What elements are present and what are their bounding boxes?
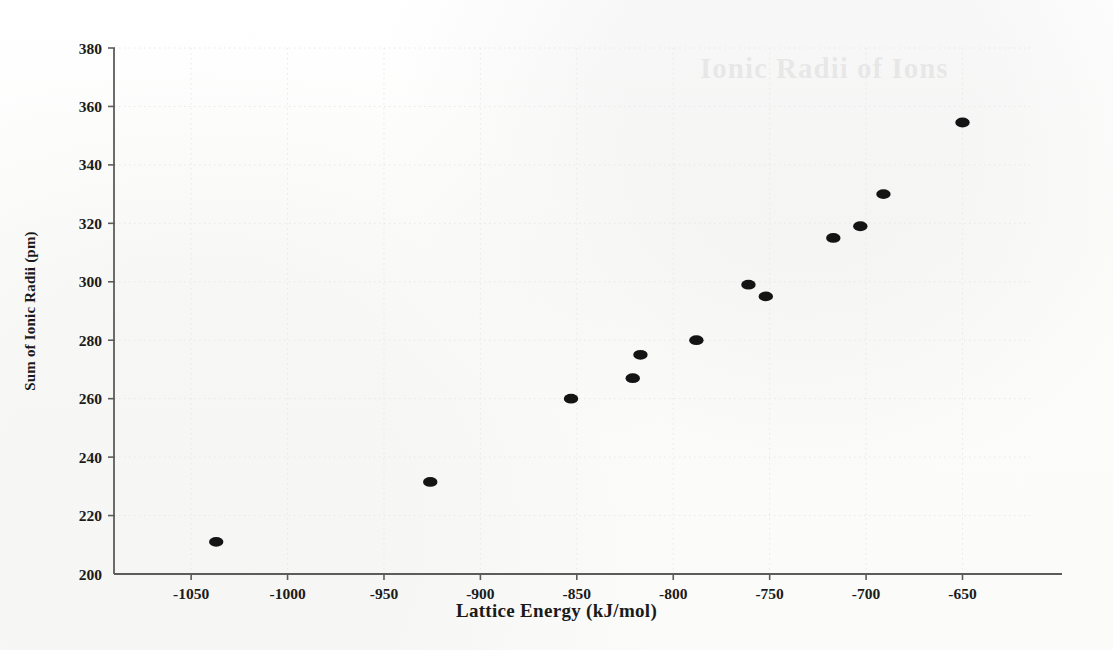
y-axis-tick-label: 220	[79, 507, 103, 524]
y-axis-tick-label: 340	[79, 156, 103, 173]
data-point-marker	[759, 291, 773, 301]
data-point-marker	[423, 477, 437, 487]
data-point-marker	[689, 335, 703, 345]
scatter-plot-figure: 200220240260280300320340360380-1050-1000…	[0, 0, 1113, 650]
data-point-marker	[853, 221, 867, 231]
y-axis-tick-label: 360	[79, 98, 103, 115]
plot-canvas: 200220240260280300320340360380-1050-1000…	[0, 0, 1113, 650]
x-axis-title: Lattice Energy (kJ/mol)	[0, 600, 1113, 622]
y-axis-tick-label: 280	[79, 332, 103, 349]
y-axis-title: Sum of Ionic Radii (pm)	[16, 48, 44, 574]
data-point-marker	[826, 233, 840, 243]
y-axis-tick-label: 320	[79, 215, 103, 232]
data-point-marker	[564, 394, 578, 404]
data-point-marker	[209, 537, 223, 547]
y-axis-tick-label: 380	[79, 40, 103, 57]
data-point-marker	[741, 280, 755, 290]
data-point-marker	[633, 350, 647, 360]
y-axis-tick-label: 240	[79, 449, 103, 466]
data-point-marker	[876, 189, 890, 199]
y-axis-tick-label: 260	[79, 390, 103, 407]
y-axis-tick-label: 200	[79, 566, 103, 583]
y-axis-tick-label: 300	[79, 273, 103, 290]
data-point-marker	[955, 118, 969, 128]
data-point-marker	[626, 373, 640, 383]
